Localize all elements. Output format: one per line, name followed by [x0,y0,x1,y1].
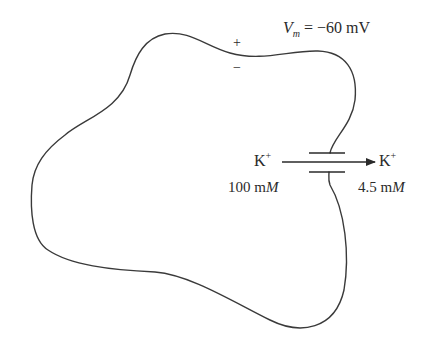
plus-sign: + [233,36,241,50]
ion-right-charge: + [391,150,397,161]
ion-right-conc-unit: M [392,179,405,195]
minus-sign: − [233,61,241,75]
ion-right-concentration: 4.5 mM [358,180,405,195]
ion-left-charge: + [266,150,272,161]
ion-left-conc-unit: M [266,179,279,195]
vm-symbol: V [283,19,293,36]
ion-left-symbol: K [254,152,266,169]
ion-left-label: K+ [254,153,271,169]
ion-right-conc-value: 4.5 m [358,179,392,195]
ion-left-conc-value: 100 m [228,179,266,195]
vm-subscript: m [293,28,300,39]
ion-left-concentration: 100 mM [228,180,278,195]
cell-diagram [0,0,443,345]
cell-membrane-outline [31,33,355,327]
membrane-potential-label: Vm = −60 mV [283,20,370,36]
ion-right-symbol: K [379,152,391,169]
vm-value: = −60 mV [304,19,370,36]
ion-right-label: K+ [379,153,396,169]
